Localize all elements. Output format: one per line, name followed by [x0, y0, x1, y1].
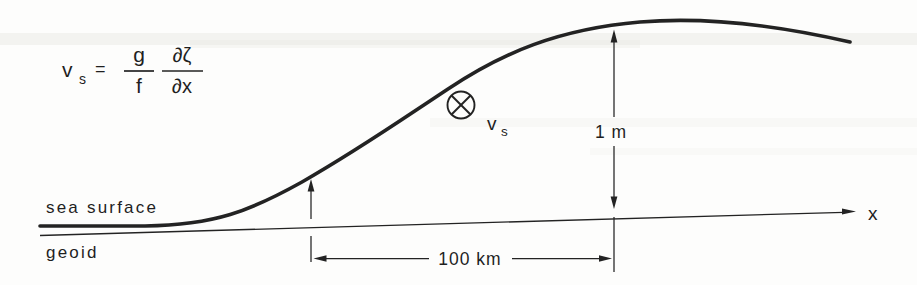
formula-geostrophic-velocity: v s = g f ∂ζ ∂x — [62, 43, 203, 97]
diagram-svg: v s = g f ∂ζ ∂x sea surface geoid 100 km… — [0, 0, 917, 285]
sea-surface-label: sea surface — [46, 198, 158, 217]
right-arrowhead-icon — [599, 255, 612, 262]
formula-variable-sub: s — [79, 71, 86, 87]
height-dim-label: 1 m — [595, 122, 627, 142]
x-axis-label: x — [868, 203, 878, 224]
formula-numerator-g: g — [133, 43, 145, 66]
formula-variable: v — [62, 58, 73, 81]
scan-artifact-band — [190, 40, 640, 48]
scan-artifact-band — [590, 148, 917, 155]
formula-denominator-f: f — [136, 74, 142, 97]
velocity-label-sub: s — [501, 124, 508, 139]
formula-numerator-dzeta: ∂ζ — [173, 44, 192, 66]
formula-equals: = — [95, 59, 106, 79]
left-arrowhead-icon — [314, 255, 327, 262]
formula-denominator-dx: ∂x — [172, 75, 192, 97]
down-arrowhead-icon — [611, 197, 618, 210]
velocity-label: v — [487, 113, 497, 134]
width-dim-label: 100 km — [438, 249, 501, 269]
into-page-vector-icon — [448, 92, 475, 119]
x-axis-arrowhead-icon — [842, 209, 856, 215]
figure-canvas: v s = g f ∂ζ ∂x sea surface geoid 100 km… — [0, 0, 917, 285]
geoid-label: geoid — [46, 243, 99, 262]
